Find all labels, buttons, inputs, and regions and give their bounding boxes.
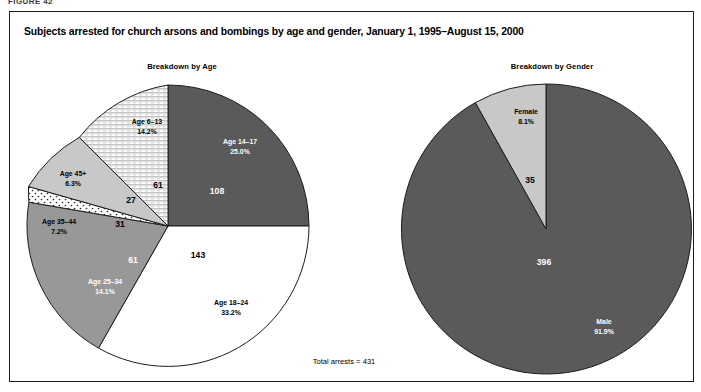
slice-value-age-14-17: 108 bbox=[210, 186, 225, 196]
slice-value-age-35-44: 31 bbox=[115, 219, 125, 229]
slice-value-male: 396 bbox=[537, 257, 552, 267]
slice-label-female-pct: 8.1% bbox=[518, 118, 534, 125]
slice-label-age-6-13-pct: 14.2% bbox=[137, 128, 157, 135]
slice-value-age-6-13: 61 bbox=[153, 180, 163, 190]
slice-label-age-18-24-pct: 33.2% bbox=[221, 309, 241, 316]
total-arrests-label: Total arrests = 431 bbox=[254, 357, 434, 366]
slice-label-age-45-plus-name: Age 45+ bbox=[60, 170, 87, 178]
slice-label-age-25-34-name: Age 25–34 bbox=[88, 278, 122, 286]
pie-slice-age-14-17[interactable] bbox=[168, 85, 309, 226]
slice-value-female: 35 bbox=[525, 175, 535, 185]
slice-label-age-14-17-name: Age 14–17 bbox=[223, 138, 257, 146]
slice-value-age-45-plus: 27 bbox=[126, 195, 136, 205]
age-pie-chart: Age 14–17 25.0% 108 Age 18–24 33.2% 143 … bbox=[27, 85, 309, 366]
slice-label-age-18-24-name: Age 18–24 bbox=[214, 299, 248, 307]
slice-label-male-pct: 91.9% bbox=[594, 328, 614, 335]
slice-label-age-14-17-pct: 25.0% bbox=[230, 148, 250, 155]
slice-value-age-18-24: 143 bbox=[191, 250, 206, 260]
gender-pie-chart: Male 91.9% 396 Female 8.1% 35 bbox=[401, 84, 691, 374]
slice-label-male-name: Male bbox=[596, 318, 611, 325]
slice-label-age-6-13-name: Age 6–13 bbox=[132, 118, 162, 126]
pie-charts-canvas: Age 14–17 25.0% 108 Age 18–24 33.2% 143 … bbox=[10, 12, 693, 381]
figure-label: FIGURE 42 bbox=[8, 0, 53, 6]
slice-label-age-45-plus-pct: 6.3% bbox=[65, 180, 81, 187]
slice-label-age-35-44-pct: 7.2% bbox=[51, 228, 67, 235]
slice-value-age-25-34: 61 bbox=[128, 255, 138, 265]
figure-panel: Subjects arrested for church arsons and … bbox=[9, 11, 694, 382]
slice-label-age-35-44-name: Age 35–44 bbox=[42, 218, 76, 226]
slice-label-female-name: Female bbox=[514, 108, 538, 115]
slice-label-age-25-34-pct: 14.1% bbox=[95, 288, 115, 295]
